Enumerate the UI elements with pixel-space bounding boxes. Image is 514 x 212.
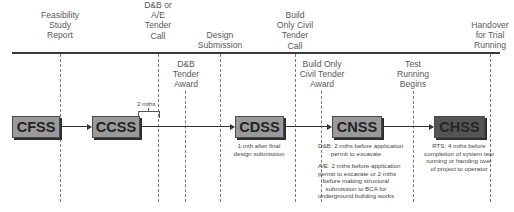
note-line: design submission — [228, 150, 290, 158]
dashed-line-feasibility — [60, 54, 61, 202]
milestone-line: D&B or — [138, 0, 178, 10]
milestone-design-submission: Design Submission — [190, 30, 250, 50]
dashed-line-test-running-begins — [413, 91, 414, 202]
milestone-dnb-ae-tender-call: D&B or A/E Tender Call — [138, 0, 178, 41]
two-months-label: 2 mths — [137, 100, 156, 108]
timeline-divider — [12, 52, 500, 54]
milestone-line: D&B — [170, 59, 202, 69]
milestone-line: Tender — [170, 69, 202, 79]
milestone-test-running-begins: Test Running Begins — [393, 59, 433, 90]
milestone-handover-for-trial-running: Handover for Trial Running — [460, 20, 514, 51]
two-months-bracket-tick — [148, 108, 149, 111]
note-line: RTS: 4 mths before — [422, 142, 496, 150]
note-line: completion of system test — [422, 150, 496, 158]
milestone-line: Begins — [393, 79, 433, 89]
milestone-line: Build — [265, 10, 325, 20]
note-line: underground building works — [318, 192, 394, 200]
dashed-line-build-only-tender-call — [295, 54, 296, 202]
note-line: before making structural — [318, 177, 394, 185]
note-cdss: 1 mth after final design submission — [228, 142, 290, 157]
milestone-line: Study — [30, 20, 90, 30]
stage-box-cdss: CDSS — [235, 116, 284, 138]
milestone-line: Running — [460, 40, 514, 50]
stage-box-cnss: CNSS — [332, 116, 382, 138]
dashed-line-design-submission — [220, 54, 221, 202]
note-line: A/E: 2 mths before application — [318, 162, 394, 170]
dashed-line-handover — [490, 54, 491, 202]
milestone-line: Build Only — [292, 59, 352, 69]
milestone-line: Feasibility — [30, 10, 90, 20]
dashed-line-dnb-tender-award — [185, 91, 186, 202]
milestone-build-only-civil-tender-award: Build Only Civil Tender Award — [292, 59, 352, 90]
note-cnss-ae: A/E: 2 mths before application permit to… — [318, 162, 394, 200]
note-line: permit to excavate or 2 mths — [318, 170, 394, 178]
note-line: D&B: 2 mths before application — [318, 142, 394, 150]
stage-box-ccss: CCSS — [92, 116, 140, 138]
milestone-line: Tender — [138, 20, 178, 30]
arrow-ccss-to-cdss — [140, 126, 234, 127]
milestone-dnb-tender-award: D&B Tender Award — [170, 59, 202, 90]
note-line: permit to excavate — [318, 150, 394, 158]
milestone-line: Design — [190, 30, 250, 40]
milestone-line: Report — [30, 30, 90, 40]
arrow-cdss-to-cnss — [284, 126, 331, 127]
milestone-line: Award — [292, 79, 352, 89]
milestone-line: Running — [393, 69, 433, 79]
note-chss: RTS: 4 mths before completion of system … — [422, 142, 496, 172]
milestone-feasibility-study-report: Feasibility Study Report — [30, 10, 90, 41]
note-line: 1 mth after final — [228, 142, 290, 150]
stage-box-cfss: CFSS — [12, 116, 60, 138]
milestone-line: A/E — [138, 10, 178, 20]
milestone-line: Tender — [265, 30, 325, 40]
arrow-cfss-to-ccss — [60, 126, 91, 127]
stage-box-chss: CHSS — [434, 116, 485, 138]
milestone-line: Test — [393, 59, 433, 69]
milestone-line: Call — [265, 41, 325, 51]
milestone-line: Civil Tender — [292, 69, 352, 79]
milestone-line: Only Civil — [265, 20, 325, 30]
note-line: of project to operator — [422, 165, 496, 173]
arrow-cnss-to-chss — [382, 126, 433, 127]
two-months-bracket — [138, 111, 160, 118]
milestone-line: Handover — [460, 20, 514, 30]
milestone-line: for Trial — [460, 30, 514, 40]
milestone-line: Submission — [190, 40, 250, 50]
milestone-build-only-civil-tender-call: Build Only Civil Tender Call — [265, 10, 325, 51]
dashed-line-dnb-ae-tender-call — [158, 54, 159, 202]
note-line: running or handing over — [422, 157, 496, 165]
note-line: submission to BCA for — [318, 185, 394, 193]
milestone-line: Award — [170, 79, 202, 89]
note-cnss-dnb: D&B: 2 mths before application permit to… — [318, 142, 394, 157]
milestone-line: Call — [138, 31, 178, 41]
